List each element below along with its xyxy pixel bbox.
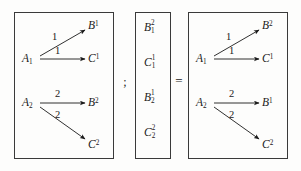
edge-label-right-A1-C1: 1 xyxy=(229,46,234,57)
edge-label-left-A2-C2: 2 xyxy=(55,110,60,121)
edge-label-right-A2-C2: 2 xyxy=(229,110,234,121)
node-left-C1: C1 xyxy=(88,53,99,65)
vector-entry-1: B21 xyxy=(144,22,156,34)
figure-canvas: A1 B1 C1 1 1 A2 B2 C2 2 2 ; B21 C11 B12 … xyxy=(0,0,301,171)
separator-semicolon: ; xyxy=(118,76,132,88)
node-left-B1: B1 xyxy=(88,20,99,32)
node-right-A1: A1 xyxy=(196,53,207,65)
vector-entry-2: C11 xyxy=(144,57,157,69)
panel-left xyxy=(14,12,114,159)
node-right-C1: C1 xyxy=(262,53,273,65)
node-right-B2: B2 xyxy=(262,20,273,32)
edge-label-right-A2-B1: 2 xyxy=(229,89,234,100)
separator-equals: = xyxy=(172,74,186,87)
panel-right xyxy=(188,12,288,159)
vector-entry-3: B12 xyxy=(144,92,156,104)
node-left-C2: C2 xyxy=(88,139,99,151)
edge-label-left-A2-B2: 2 xyxy=(55,89,60,100)
node-left-A1: A1 xyxy=(22,53,33,65)
edge-label-left-A1-C1: 1 xyxy=(55,46,60,57)
node-left-B2: B2 xyxy=(88,97,99,109)
node-left-A2: A2 xyxy=(22,97,33,109)
node-right-B1: B1 xyxy=(262,97,273,109)
node-right-A2: A2 xyxy=(196,97,207,109)
node-right-C2: C2 xyxy=(262,139,273,151)
edge-label-right-A1-B2: 1 xyxy=(226,32,231,43)
vector-entry-4: C22 xyxy=(144,127,157,139)
edge-label-left-A1-B1: 1 xyxy=(52,32,57,43)
